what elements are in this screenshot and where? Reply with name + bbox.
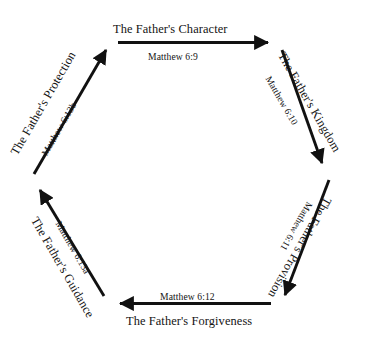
cycle-diagram: The Father's Character Matthew 6:9 The F…: [0, 0, 377, 346]
step-reference-character: Matthew 6:9: [148, 52, 198, 62]
step-title-forgiveness: The Father's Forgiveness: [126, 315, 252, 327]
step-reference-forgiveness: Matthew 6:12: [160, 292, 215, 302]
step-title-character: The Father's Character: [113, 23, 228, 35]
